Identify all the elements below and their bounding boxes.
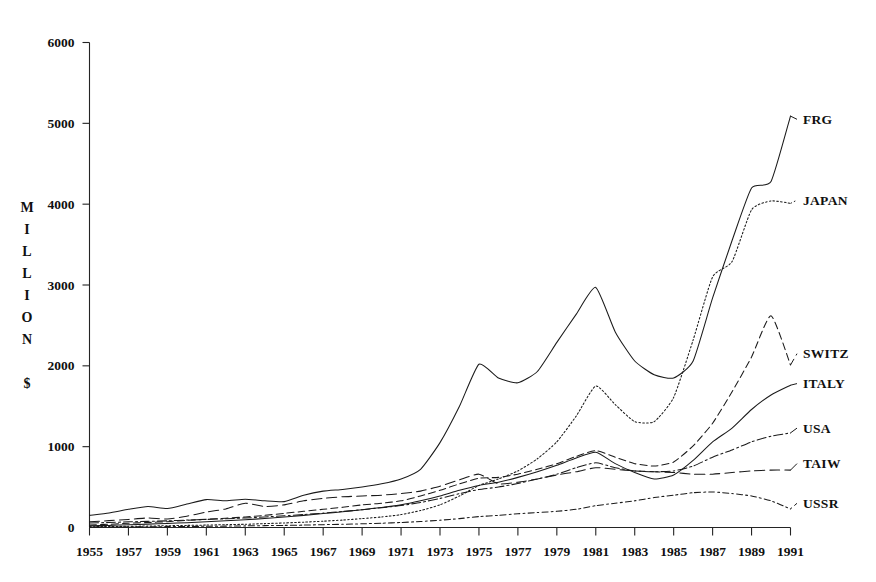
series-label-japan: JAPAN bbox=[803, 193, 848, 208]
y-axis-title-letter: M bbox=[20, 200, 33, 215]
x-tick-label: 1959 bbox=[154, 544, 181, 559]
y-tick-label: 5000 bbox=[48, 116, 75, 131]
x-tick-label: 1955 bbox=[76, 544, 103, 559]
x-tick-label: 1983 bbox=[621, 544, 648, 559]
x-tick-label: 1969 bbox=[349, 544, 376, 559]
x-tick-label: 1975 bbox=[465, 544, 492, 559]
x-tick-label: 1989 bbox=[738, 544, 765, 559]
x-tick-label: 1985 bbox=[660, 544, 687, 559]
chart-background bbox=[0, 0, 876, 582]
series-label-taiw: TAIW bbox=[803, 456, 841, 471]
x-tick-label: 1963 bbox=[232, 544, 259, 559]
y-axis-title-letter: L bbox=[22, 244, 31, 259]
x-tick-label: 1965 bbox=[271, 544, 298, 559]
y-axis-title-letter: I bbox=[24, 222, 29, 237]
y-axis-title-letter: $ bbox=[24, 376, 31, 391]
y-tick-label: 6000 bbox=[48, 35, 75, 50]
series-label-frg: FRG bbox=[803, 112, 833, 127]
y-axis-title-letter: I bbox=[24, 288, 29, 303]
x-tick-label: 1991 bbox=[777, 544, 804, 559]
x-tick-label: 1977 bbox=[504, 544, 531, 559]
x-tick-label: 1979 bbox=[543, 544, 570, 559]
y-tick-label: 0 bbox=[68, 520, 75, 535]
y-tick-label: 4000 bbox=[48, 197, 75, 212]
x-tick-label: 1967 bbox=[310, 544, 337, 559]
x-tick-label: 1987 bbox=[699, 544, 726, 559]
series-label-ussr: USSR bbox=[803, 496, 839, 511]
series-label-usa: USA bbox=[803, 421, 831, 436]
x-tick-label: 1981 bbox=[582, 544, 609, 559]
x-tick-label: 1957 bbox=[115, 544, 142, 559]
line-chart: 0100020003000400050006000 19551957195919… bbox=[0, 0, 876, 582]
x-tick-label: 1973 bbox=[427, 544, 454, 559]
y-tick-label: 1000 bbox=[48, 439, 75, 454]
y-axis-title-letter: O bbox=[22, 310, 33, 325]
y-axis-title-letter: N bbox=[22, 332, 32, 347]
y-axis-title-letter: L bbox=[22, 266, 31, 281]
x-tick-label: 1971 bbox=[388, 544, 415, 559]
y-tick-label: 3000 bbox=[48, 278, 75, 293]
series-label-italy: ITALY bbox=[803, 376, 845, 391]
chart-canvas: 0100020003000400050006000 19551957195919… bbox=[0, 0, 876, 582]
x-tick-label: 1961 bbox=[193, 544, 220, 559]
series-label-switz: SWITZ bbox=[803, 346, 849, 361]
y-tick-label: 2000 bbox=[48, 358, 75, 373]
